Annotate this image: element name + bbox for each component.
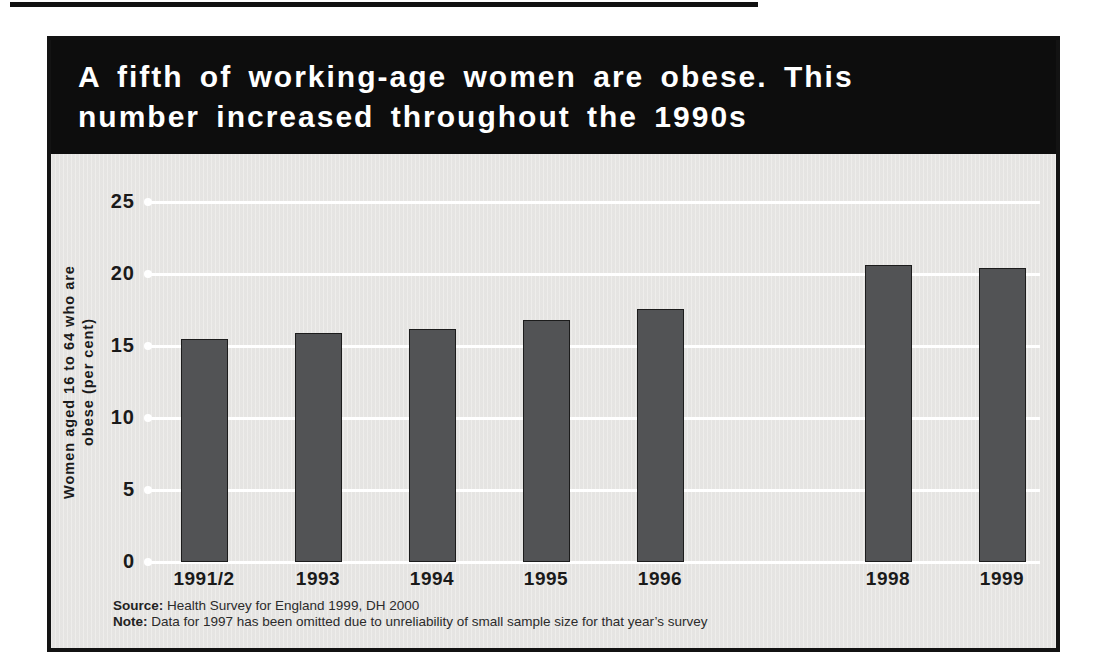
x-tick-label-1996: 1996 [612,568,708,590]
source-label: Source: [113,598,163,613]
gridline-dot-5 [144,486,152,494]
bar-1995 [523,320,570,562]
gridline-dot-15 [144,342,152,350]
y-axis-title-line-1: Women aged 16 to 64 who are [60,265,79,499]
source-text: Health Survey for England 1999, DH 2000 [163,598,419,613]
bar-1993 [295,333,342,562]
y-tick-label-25: 25 [69,190,135,213]
chart-title-line-1: A fifth of working-age women are obese. … [78,57,1056,97]
note-text: Data for 1997 has been omitted due to un… [148,614,708,629]
bar-1991/2 [181,339,228,562]
x-tick-label-1994: 1994 [384,568,480,590]
source-line: Source: Health Survey for England 1999, … [113,598,708,614]
gridline-dot-10 [144,414,152,422]
chart-title-line-2: number increased throughout the 1990s [78,97,1056,137]
y-tick-label-5: 5 [69,478,135,501]
bar-1994 [409,329,456,562]
y-axis-title: Women aged 16 to 64 who are obese (per c… [60,265,98,499]
x-tick-label-1991/2: 1991/2 [156,568,252,590]
gridline-dot-20 [144,270,152,278]
page: { "banner": { "title_line1": "A fifth of… [0,0,1101,657]
y-tick-label-10: 10 [69,406,135,429]
y-tick-label-15: 15 [69,334,135,357]
footnotes: Source: Health Survey for England 1999, … [113,598,708,629]
chart-title-banner: A fifth of working-age women are obese. … [51,40,1056,154]
y-axis-title-line-2: obese (per cent) [79,265,98,499]
note-line: Note: Data for 1997 has been omitted due… [113,614,708,630]
chart-panel: A fifth of working-age women are obese. … [47,36,1060,652]
gridline-dot-0 [144,558,152,566]
x-tick-label-1993: 1993 [270,568,366,590]
bar-1999 [979,268,1026,562]
gridline-25 [150,201,1040,204]
x-tick-label-1995: 1995 [498,568,594,590]
plot-area: Women aged 16 to 64 who are obese (per c… [51,154,1056,648]
bar-1998 [865,265,912,562]
y-tick-label-20: 20 [69,262,135,285]
x-tick-label-1999: 1999 [954,568,1050,590]
gridline-dot-25 [144,198,152,206]
bar-1996 [637,309,684,562]
x-tick-label-1998: 1998 [840,568,936,590]
y-tick-label-0: 0 [69,550,135,573]
scan-artifact-top-rule [10,2,758,7]
note-label: Note: [113,614,148,629]
